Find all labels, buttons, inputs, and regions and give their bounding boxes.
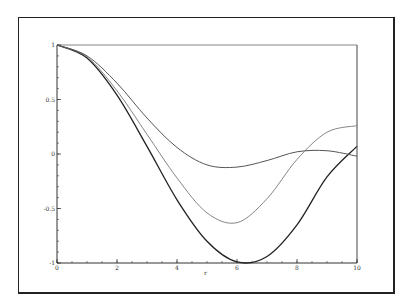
y-tick-label: -1 — [49, 259, 55, 266]
series-curve-2 — [57, 45, 357, 223]
line-chart: 024681010.50-0.5-1 r — [0, 0, 411, 303]
series-lines — [57, 45, 357, 263]
x-tick-label: 8 — [295, 264, 299, 271]
x-tick-label: 0 — [55, 264, 59, 271]
y-tick-label: 0 — [51, 150, 55, 157]
x-tick-label: 4 — [175, 264, 179, 271]
y-tick-label: 1 — [51, 41, 55, 48]
x-tick-label: 10 — [353, 264, 361, 271]
x-tick-label: 6 — [235, 264, 239, 271]
series-curve-1 — [57, 45, 357, 263]
series-curve-3 — [57, 45, 357, 168]
y-tick-label: 0.5 — [45, 96, 55, 103]
y-tick-label: -0.5 — [43, 205, 55, 212]
x-axis-label: r — [204, 269, 207, 276]
x-tick-label: 2 — [115, 264, 119, 271]
